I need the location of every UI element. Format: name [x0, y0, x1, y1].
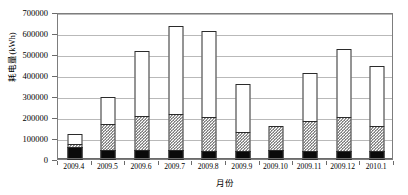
x-axis-line: [58, 158, 392, 159]
x-axis-tick-mark: [158, 161, 159, 165]
x-axis-tick-label: 2009.12: [330, 162, 355, 172]
x-axis-tick-mark: [292, 161, 293, 165]
bar-slot: [159, 14, 193, 159]
x-axis-tick-label: 2009.5: [97, 162, 118, 172]
y-axis-tick-label: 200000: [23, 114, 49, 122]
bar-segment[interactable]: [235, 132, 250, 152]
stacked-bar[interactable]: [336, 49, 351, 159]
x-axis-tick-mark: [259, 161, 260, 165]
bar-segment[interactable]: [370, 66, 385, 127]
x-axis-tick-mark: [393, 161, 394, 165]
bar-segment[interactable]: [168, 114, 183, 151]
stacked-bar[interactable]: [202, 31, 217, 159]
x-axis-tick-label: 2010.1: [366, 162, 387, 172]
x-axis-tick-mark: [91, 161, 92, 165]
bar-segment[interactable]: [302, 121, 317, 151]
bar-segment[interactable]: [168, 26, 183, 115]
chart-container: 耗电量(kWh) 0100000200000300000400000500000…: [0, 0, 408, 195]
stacked-bar[interactable]: [168, 26, 183, 159]
bar-segment[interactable]: [101, 97, 116, 125]
x-axis-tick-label: 2009.7: [164, 162, 185, 172]
x-axis-tick-label: 2009.4: [63, 162, 84, 172]
bar-slot: [360, 14, 394, 159]
bar-segment[interactable]: [101, 124, 116, 151]
x-axis-tick-mark: [225, 161, 226, 165]
stacked-bar[interactable]: [101, 97, 116, 159]
bar-segment[interactable]: [235, 84, 250, 132]
y-axis-tick-label: 0: [44, 156, 48, 164]
stacked-bar[interactable]: [269, 126, 284, 159]
stacked-bar[interactable]: [302, 73, 317, 159]
x-axis-tick-label: 2009.11: [297, 162, 321, 172]
bar-segment[interactable]: [202, 117, 217, 152]
bar-segment[interactable]: [134, 116, 149, 151]
x-axis-tick-label: 2009.9: [231, 162, 252, 172]
x-axis-title: 月份: [57, 178, 393, 188]
x-axis-tick-label: 2009.10: [263, 162, 288, 172]
stacked-bar[interactable]: [235, 84, 250, 159]
y-axis-tick-label: 100000: [23, 135, 49, 143]
stacked-bar[interactable]: [67, 134, 82, 159]
x-axis-tick-mark: [57, 161, 58, 165]
bar-slot: [226, 14, 260, 159]
bar-slot: [293, 14, 327, 159]
x-axis-tick-mark: [191, 161, 192, 165]
y-axis-tick-label: 500000: [23, 51, 49, 59]
bar-segment[interactable]: [370, 126, 385, 151]
bar-segment[interactable]: [302, 73, 317, 122]
bar-segment[interactable]: [134, 51, 149, 118]
bar-segment[interactable]: [336, 117, 351, 152]
y-axis-tick-label: 600000: [23, 30, 49, 38]
bar-slot: [260, 14, 294, 159]
y-axis-tick-label: 400000: [23, 72, 49, 80]
stacked-bar[interactable]: [370, 66, 385, 159]
bar-slot: [125, 14, 159, 159]
x-axis-tick-label: 2009.8: [198, 162, 219, 172]
x-axis-tick-mark: [359, 161, 360, 165]
y-axis-tick-labels: 0100000200000300000400000500000600000700…: [0, 0, 57, 175]
y-axis-tick-label: 300000: [23, 93, 49, 101]
bar-slot: [192, 14, 226, 159]
stacked-bar[interactable]: [134, 51, 149, 159]
x-axis-tick-labels: 2009.42009.52009.62009.72009.82009.92009…: [57, 161, 393, 175]
y-axis-tick-label: 700000: [23, 9, 49, 17]
bar-segment[interactable]: [336, 49, 351, 118]
x-axis-tick-mark: [124, 161, 125, 165]
bar-segment[interactable]: [269, 126, 284, 151]
x-axis-tick-label: 2009.6: [131, 162, 152, 172]
bar-slot: [327, 14, 361, 159]
x-axis-tick-mark: [326, 161, 327, 165]
bar-slot: [92, 14, 126, 159]
bar-slot: [58, 14, 92, 159]
plot-area: [57, 13, 393, 160]
bar-segment[interactable]: [202, 31, 217, 118]
